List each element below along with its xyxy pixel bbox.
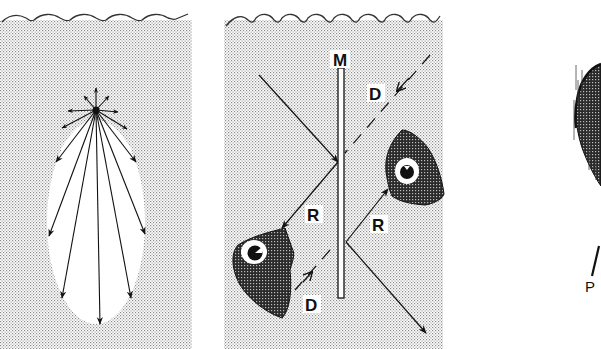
direct-label-upper: D [369, 85, 381, 104]
pointer-label: P [585, 278, 595, 295]
pointer-line [592, 246, 599, 276]
reflected-label-left: R [307, 206, 319, 225]
direct-label-lower: D [305, 296, 317, 315]
panel-c: P [574, 64, 601, 295]
mirror [338, 68, 344, 298]
light-source [93, 107, 100, 114]
reflected-label-right: R [372, 216, 384, 235]
panel-b: M D D R R [224, 14, 444, 349]
diagram: M D D R R [0, 0, 601, 349]
panel-a [0, 14, 192, 349]
mirror-label: M [333, 51, 347, 70]
fish-partial [576, 64, 601, 186]
